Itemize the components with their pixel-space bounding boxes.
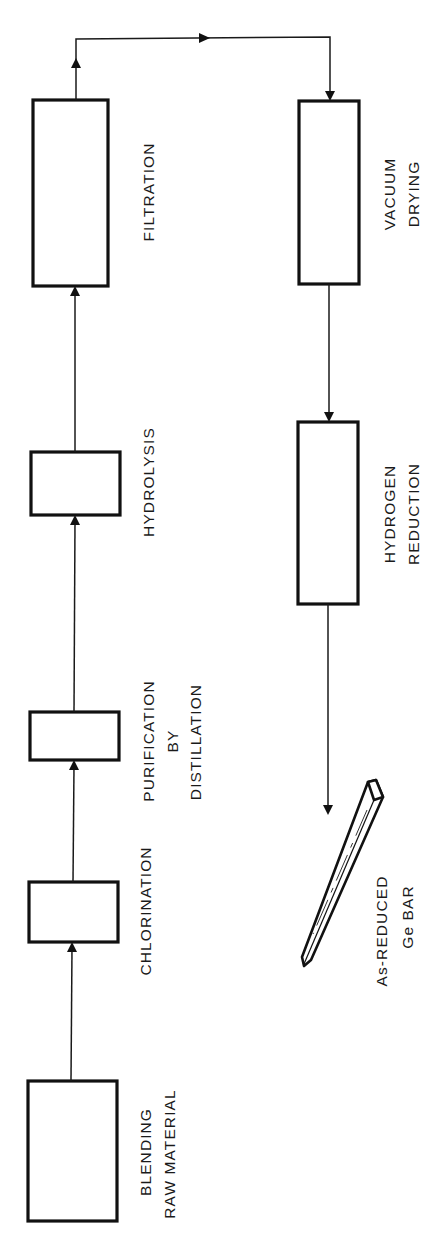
purification-label-line-1: PURIFICATION	[140, 680, 157, 801]
edge-blending-to-chlorination	[67, 942, 77, 1081]
ge-bar-label-line-1: As-REDUCED	[373, 876, 390, 987]
step-filtration: FILTRATION	[33, 100, 157, 286]
step-vacuum-drying: VACUUM DRYING	[299, 101, 422, 284]
filtration-label: FILTRATION	[140, 142, 157, 241]
chlorination-label: CHLORINATION	[137, 846, 154, 975]
edge-purification-to-hydrolysis	[70, 515, 80, 712]
blending-label-line-2: RAW MATERIAL	[161, 1089, 178, 1218]
filtration-box	[33, 100, 108, 286]
step-hydrogen-reduction: HYDROGEN REDUCTION	[298, 422, 422, 604]
edge-hydrogen-reduction-to-ge-bar	[323, 604, 333, 815]
edge-filtration-to-vacuum-drying	[71, 33, 335, 101]
step-chlorination: CHLORINATION	[29, 846, 154, 975]
vacuum-drying-label-line-1: VACUUM	[381, 158, 398, 231]
process-flow-diagram: BLENDING RAW MATERIAL CHLORINATION PURIF…	[0, 0, 437, 1253]
hydrogen-reduction-label-line-2: REDUCTION	[405, 463, 422, 565]
ge-bar-label-line-2: Ge BAR	[399, 885, 416, 948]
purification-box	[30, 712, 119, 760]
ge-bar-illustration	[302, 780, 383, 966]
step-hydrolysis: HYDROLYSIS	[31, 427, 157, 537]
hydrogen-reduction-label-line-1: HYDROGEN	[381, 465, 398, 563]
edge-chlorination-to-purification	[69, 760, 79, 882]
hydrolysis-label: HYDROLYSIS	[140, 427, 157, 537]
purification-label-line-3: DISTILLATION	[187, 684, 204, 800]
vacuum-drying-label-line-2: DRYING	[405, 161, 422, 228]
vacuum-drying-box	[299, 101, 359, 284]
arrow-right-icon	[199, 33, 210, 43]
hydrogen-reduction-box	[298, 422, 358, 604]
step-blending: BLENDING RAW MATERIAL	[28, 1081, 178, 1221]
ge-bar-label: As-REDUCED Ge BAR	[373, 876, 416, 987]
step-purification: PURIFICATION BY DISTILLATION	[30, 680, 204, 801]
chlorination-box	[29, 882, 118, 942]
blending-box	[28, 1081, 117, 1221]
arrow-up-icon	[71, 58, 81, 68]
arrow-down-icon	[323, 805, 333, 815]
blending-label-line-1: BLENDING	[137, 1108, 154, 1196]
hydrolysis-box	[31, 452, 120, 515]
purification-label-line-2: BY	[164, 730, 181, 753]
edge-vacuum-drying-to-hydrogen-reduction	[324, 284, 334, 422]
edge-hydrolysis-to-filtration	[70, 286, 80, 452]
